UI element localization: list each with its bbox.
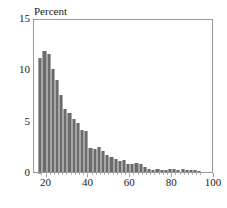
bars-layer xyxy=(34,20,212,172)
x-tick-label: 100 xyxy=(205,176,222,188)
x-minor-tick-mark xyxy=(121,173,122,175)
x-minor-tick-mark xyxy=(96,173,97,175)
x-minor-tick-mark xyxy=(92,173,93,175)
x-minor-tick-mark xyxy=(66,173,67,175)
histogram-bar xyxy=(197,171,201,172)
histogram-figure: Percent 051015 20406080100 xyxy=(0,0,227,208)
x-minor-tick-mark xyxy=(154,173,155,175)
y-tick-label: 5 xyxy=(25,116,31,127)
x-minor-tick-mark xyxy=(171,173,172,175)
x-minor-tick-mark xyxy=(167,173,168,175)
x-minor-tick-mark xyxy=(83,173,84,175)
x-minor-tick-mark xyxy=(159,173,160,175)
plot-area xyxy=(33,19,213,173)
x-tick-mark xyxy=(213,173,214,177)
caption-fragment xyxy=(18,195,218,205)
x-minor-tick-mark xyxy=(71,173,72,175)
x-minor-tick-mark xyxy=(184,173,185,175)
x-minor-tick-mark xyxy=(108,173,109,175)
x-minor-tick-mark xyxy=(113,173,114,175)
x-minor-tick-mark xyxy=(104,173,105,175)
x-minor-tick-mark xyxy=(129,173,130,175)
chart-title: Percent xyxy=(34,5,67,17)
x-minor-tick-mark xyxy=(163,173,164,175)
x-tick-label: 40 xyxy=(82,176,93,188)
x-minor-tick-mark xyxy=(58,173,59,175)
x-minor-tick-mark xyxy=(180,173,181,175)
x-minor-tick-mark xyxy=(142,173,143,175)
x-minor-tick-mark xyxy=(138,173,139,175)
x-minor-tick-mark xyxy=(62,173,63,175)
x-minor-tick-mark xyxy=(50,173,51,175)
x-minor-tick-mark xyxy=(100,173,101,175)
x-tick-label: 20 xyxy=(40,176,51,188)
x-tick-label: 80 xyxy=(166,176,177,188)
x-minor-tick-mark xyxy=(188,173,189,175)
x-minor-tick-mark xyxy=(46,173,47,175)
x-minor-tick-mark xyxy=(133,173,134,175)
x-minor-tick-mark xyxy=(150,173,151,175)
x-minor-tick-mark xyxy=(41,173,42,175)
x-minor-tick-mark xyxy=(54,173,55,175)
x-minor-tick-mark xyxy=(87,173,88,175)
x-minor-tick-mark xyxy=(117,173,118,175)
y-tick-label: 10 xyxy=(19,64,30,75)
x-minor-tick-mark xyxy=(200,173,201,175)
y-tick-label: 15 xyxy=(19,13,30,24)
x-minor-tick-mark xyxy=(192,173,193,175)
x-minor-tick-mark xyxy=(196,173,197,175)
x-minor-tick-mark xyxy=(146,173,147,175)
x-minor-tick-mark xyxy=(175,173,176,175)
x-minor-tick-mark xyxy=(79,173,80,175)
x-minor-tick-mark xyxy=(75,173,76,175)
x-tick-label: 60 xyxy=(124,176,135,188)
x-minor-tick-mark xyxy=(125,173,126,175)
x-axis: 20406080100 xyxy=(0,176,227,192)
